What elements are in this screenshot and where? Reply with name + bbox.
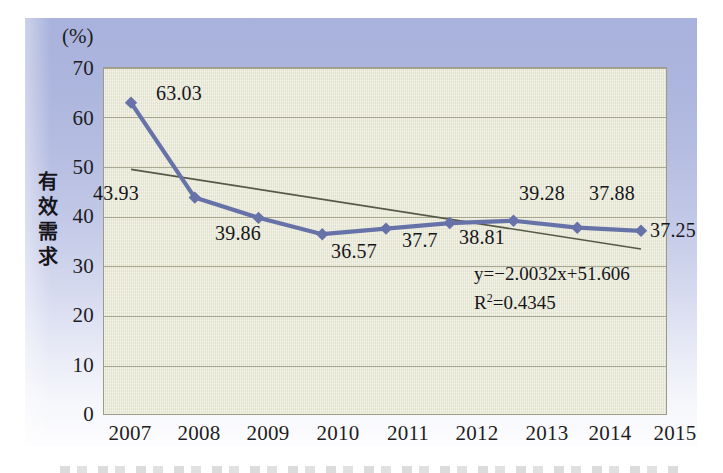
trendline-equation: y=−2.0032x+51.606 <box>474 262 630 286</box>
x-tick-2011: 2011 <box>372 421 444 446</box>
series-layer <box>104 68 667 415</box>
data-label-2008: 43.93 <box>93 182 139 205</box>
x-tick-2012: 2012 <box>441 421 513 446</box>
trendline-equation-block: y=−2.0032x+51.606 R2=0.4345 <box>474 262 630 315</box>
x-tick-2013: 2013 <box>511 421 583 446</box>
x-tick-2015: 2015 <box>639 421 711 446</box>
data-point-2014 <box>571 221 583 233</box>
chart-figure: (%) 有效需求 70 60 50 40 30 20 10 0 2007 200… <box>0 0 723 473</box>
x-tick-2010: 2010 <box>302 421 374 446</box>
y-axis-unit-label: (%) <box>62 24 93 49</box>
series-line-effective-demand <box>131 103 641 235</box>
y-tick-20: 20 <box>48 303 94 328</box>
y-tick-70: 70 <box>48 56 94 81</box>
r-symbol: R <box>474 292 487 313</box>
data-point-2012 <box>444 217 456 229</box>
data-point-2015 <box>635 225 647 237</box>
data-label-2013: 39.28 <box>519 182 565 205</box>
series-markers <box>125 96 647 240</box>
y-tick-50: 50 <box>48 155 94 180</box>
r-squared-value: =0.4345 <box>493 292 556 313</box>
y-tick-0: 0 <box>48 402 94 427</box>
x-tick-2008: 2008 <box>163 421 235 446</box>
cut-off-caption-sliver <box>60 466 680 473</box>
data-point-2013 <box>507 215 519 227</box>
data-label-2012: 38.81 <box>459 226 505 249</box>
x-tick-2009: 2009 <box>232 421 304 446</box>
gridline-0 <box>104 414 666 415</box>
data-label-2007: 63.03 <box>156 82 202 105</box>
y-tick-30: 30 <box>48 254 94 279</box>
x-tick-2007: 2007 <box>94 421 166 446</box>
data-label-2014: 37.88 <box>589 182 635 205</box>
plot-area <box>103 67 667 415</box>
y-tick-10: 10 <box>48 353 94 378</box>
data-label-2011: 37.7 <box>402 229 438 252</box>
data-label-2009: 39.86 <box>215 222 261 245</box>
trendline-r-squared: R2=0.4345 <box>474 286 630 315</box>
data-point-2010 <box>316 228 328 240</box>
data-label-2015: 37.25 <box>650 219 696 242</box>
y-tick-60: 60 <box>48 106 94 131</box>
x-tick-2014: 2014 <box>574 421 646 446</box>
data-point-2011 <box>380 222 392 234</box>
y-tick-40: 40 <box>48 204 94 229</box>
data-label-2010: 36.57 <box>331 240 377 263</box>
